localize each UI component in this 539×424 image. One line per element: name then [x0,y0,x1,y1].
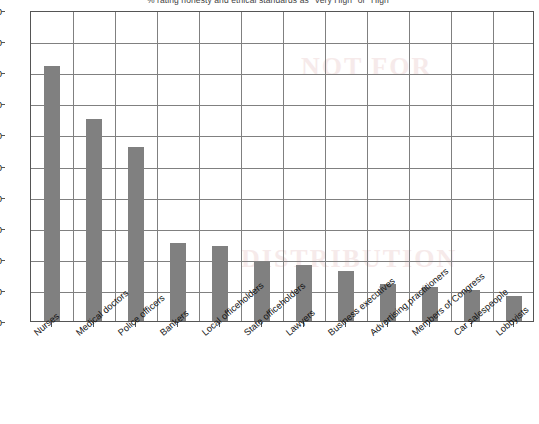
bar-chart: % rating honesty and ethical standards a… [0,0,539,424]
x-axis-tick-label: Lawyers [284,308,317,338]
x-axis-labels: NursesMedical doctorsPolice officersBank… [0,0,539,424]
x-axis-tick-label: Nurses [32,311,61,338]
x-axis-tick-label: Members of Congress [410,271,486,337]
x-axis-tick-label: Business executives [326,276,397,338]
x-axis-tick-label: Advertising practitioners [368,266,450,337]
x-axis-tick-label: Bankers [158,308,191,338]
x-axis-tick-label: Lobbyists [494,305,531,338]
